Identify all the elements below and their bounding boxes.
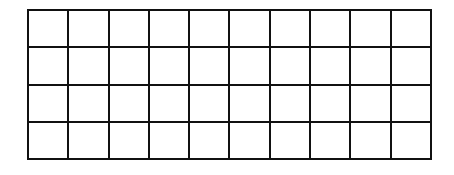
grid-cell — [310, 122, 350, 159]
grid-row — [28, 122, 431, 159]
grid-cell — [109, 122, 149, 159]
grid-cell — [391, 47, 431, 84]
grid-cell — [149, 10, 189, 47]
grid-cell — [310, 47, 350, 84]
grid-cell — [109, 47, 149, 84]
grid-cell — [109, 10, 149, 47]
grid-cell — [391, 122, 431, 159]
grid-cell — [189, 122, 229, 159]
grid-cell — [28, 122, 68, 159]
grid-cell — [68, 85, 108, 122]
grid-cell — [391, 85, 431, 122]
grid-cell — [229, 10, 269, 47]
grid-cell — [270, 47, 310, 84]
grid-cell — [149, 122, 189, 159]
grid-cell — [350, 10, 390, 47]
grid-row — [28, 10, 431, 47]
grid-cell — [68, 122, 108, 159]
grid-cell — [270, 10, 310, 47]
grid-cell — [270, 85, 310, 122]
grid-cell — [28, 10, 68, 47]
grid-cell — [189, 85, 229, 122]
grid-cell — [310, 10, 350, 47]
grid-cell — [189, 10, 229, 47]
grid-cell — [68, 10, 108, 47]
grid-row — [28, 47, 431, 84]
grid-row — [28, 85, 431, 122]
grid-cell — [149, 47, 189, 84]
grid-cell — [350, 47, 390, 84]
grid-cell — [310, 85, 350, 122]
grid-cell — [189, 47, 229, 84]
grid-cell — [350, 85, 390, 122]
grid-cell — [229, 47, 269, 84]
grid-cell — [350, 122, 390, 159]
grid-cell — [229, 85, 269, 122]
grid-cell — [391, 10, 431, 47]
grid-cell — [28, 47, 68, 84]
grid-cell — [149, 85, 189, 122]
grid-cell — [68, 47, 108, 84]
grid-cell — [28, 85, 68, 122]
grid-cell — [270, 122, 310, 159]
grid-cell — [109, 85, 149, 122]
grid-cell — [229, 122, 269, 159]
empty-grid — [27, 9, 432, 160]
